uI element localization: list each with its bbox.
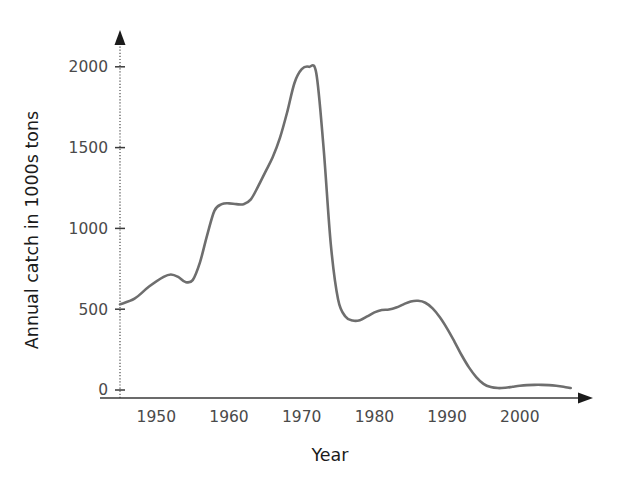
series-line-annual-catch	[120, 65, 571, 388]
y-tick-label: 2000	[69, 58, 108, 76]
x-tick-label: 1980	[355, 408, 394, 426]
y-axis-ticks: 0500100015002000	[69, 58, 125, 399]
x-axis-arrow-icon	[578, 393, 593, 404]
x-tick-label: 1960	[209, 408, 248, 426]
y-tick-label: 1500	[69, 139, 108, 157]
y-tick-label: 500	[78, 301, 108, 319]
y-axis-arrow-icon	[115, 30, 126, 45]
x-axis-ticks: 195019601970198019902000	[137, 408, 540, 426]
line-chart: 0500100015002000 19501960197019801990200…	[0, 0, 629, 492]
y-axis-title: Annual catch in 1000s tons	[22, 111, 42, 349]
y-tick-label: 0	[98, 381, 108, 399]
x-tick-label: 1970	[282, 408, 321, 426]
x-tick-label: 1990	[427, 408, 466, 426]
x-axis-title: Year	[310, 445, 349, 465]
chart-container: 0500100015002000 19501960197019801990200…	[0, 0, 629, 492]
x-tick-label: 1950	[137, 408, 176, 426]
y-tick-label: 1000	[69, 220, 108, 238]
x-tick-label: 2000	[500, 408, 539, 426]
